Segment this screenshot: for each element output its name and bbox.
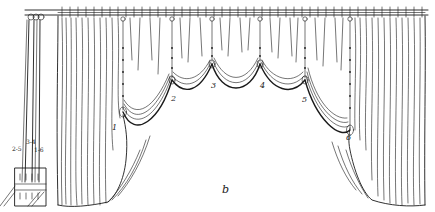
right-curtain-panel xyxy=(332,16,425,206)
left-curtain-panel xyxy=(57,16,150,206)
curtain-diagram: 1 2 3 4 5 6 2-5 3-4 1-6 b xyxy=(0,0,435,212)
tie-label-1: 1 xyxy=(112,124,117,132)
rope-label-2-5: 2-5 xyxy=(12,146,22,152)
tie-label-4: 4 xyxy=(260,82,265,90)
tie-label-5: 5 xyxy=(302,96,307,104)
tie-label-3: 3 xyxy=(211,82,216,90)
tie-label-6: 6 xyxy=(346,134,351,142)
rope-label-1-6: 1-6 xyxy=(34,147,44,153)
festoon-swags xyxy=(120,58,354,135)
figure-caption-letter: b xyxy=(222,183,229,196)
curtain-rings xyxy=(62,7,422,21)
rope-label-3-4: 3-4 xyxy=(26,139,36,145)
curtain-rod xyxy=(25,10,428,20)
operating-ropes xyxy=(22,20,40,182)
upper-folds xyxy=(130,18,343,74)
curtain-drawing xyxy=(0,0,435,212)
tie-label-2: 2 xyxy=(171,95,176,103)
